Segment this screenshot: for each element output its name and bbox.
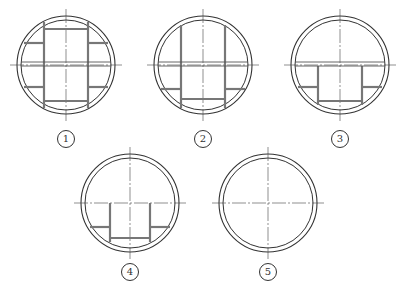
tunnel-sections-diagram	[0, 0, 407, 297]
section-3	[284, 9, 396, 121]
section-1	[10, 9, 122, 121]
section-2	[147, 9, 259, 121]
section-label-4: 4	[121, 263, 139, 281]
section-label-5: 5	[259, 263, 277, 281]
section-5	[212, 147, 324, 259]
section-label-2: 2	[194, 130, 212, 148]
section-4	[74, 147, 186, 259]
section-label-3: 3	[331, 130, 349, 148]
section-label-1: 1	[57, 130, 75, 148]
